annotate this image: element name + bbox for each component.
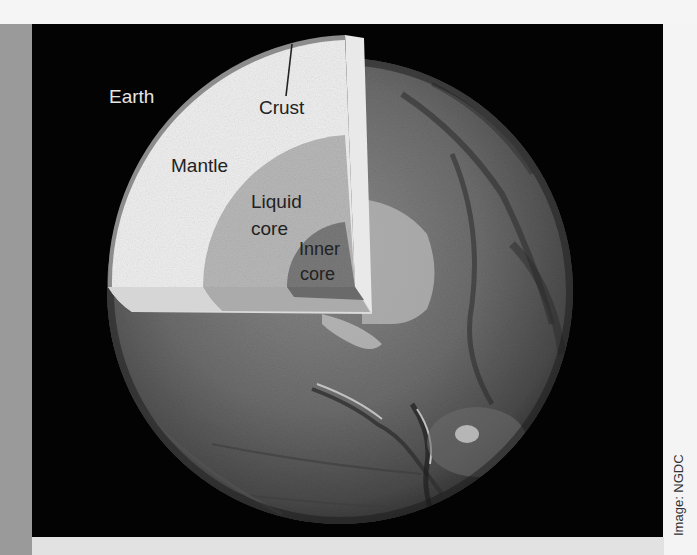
bottom-margin <box>32 537 664 555</box>
crust-label: Crust <box>259 98 304 117</box>
liquid-core-label-line1: Liquid <box>251 192 302 211</box>
inner-core-label-line2: core <box>300 265 335 283</box>
liquid-core-label-line2: core <box>251 219 288 238</box>
image-credit: Image: NGDC <box>671 454 686 536</box>
inner-core-label-line1: Inner <box>299 240 340 258</box>
earth-label: Earth <box>109 87 154 106</box>
mantle-label: Mantle <box>171 156 228 175</box>
top-margin <box>0 0 697 24</box>
earth-diagram-panel: Earth Crust Mantle Liquid core Inner cor… <box>32 24 663 537</box>
left-gray-strip <box>0 24 32 555</box>
